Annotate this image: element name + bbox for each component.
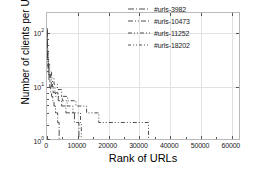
y-tick-label-2: 102: [33, 27, 44, 36]
x-tick-label-40000: 40000: [160, 142, 178, 149]
legend-line-sample-3: [128, 42, 150, 48]
legend-line-sample-2: [128, 30, 150, 36]
series-line-0: [47, 32, 59, 139]
x-axis-label: Rank of URLs: [46, 152, 240, 164]
x-tick-label-50000: 50000: [191, 142, 209, 149]
y-axis-label: Number of clients per URL: [20, 0, 31, 121]
chart-figure: Number of clients per URL 100 101 102: [0, 0, 256, 172]
series-line-1: [47, 31, 79, 139]
legend-item-3: #urls-18202: [128, 40, 190, 50]
y-tick-label-0: 100: [33, 135, 44, 144]
x-tick-label-0: 0: [44, 142, 48, 149]
legend-label-2: #urls-11252: [154, 30, 189, 37]
chart-legend: #urls-3982 #urls-10473 #urls-11252 #urls…: [126, 2, 192, 52]
y-tick-label-1: 101: [33, 81, 44, 90]
legend-item-1: #urls-10473: [128, 16, 190, 26]
series-line-2: [47, 29, 81, 139]
y-tick-126: [47, 139, 50, 140]
legend-item-2: #urls-11252: [128, 28, 190, 38]
legend-item-0: #urls-3982: [128, 4, 190, 14]
x-tick-label-30000: 30000: [129, 142, 147, 149]
legend-label-1: #urls-10473: [154, 18, 190, 25]
legend-label-3: #urls-18202: [154, 42, 190, 49]
x-tick-label-20000: 20000: [98, 142, 116, 149]
x-tick-label-60000: 60000: [222, 142, 240, 149]
legend-label-0: #urls-3982: [154, 6, 186, 13]
legend-line-sample-0: [128, 6, 150, 12]
x-tick-label-10000: 10000: [68, 142, 86, 149]
legend-line-sample-1: [128, 18, 150, 24]
